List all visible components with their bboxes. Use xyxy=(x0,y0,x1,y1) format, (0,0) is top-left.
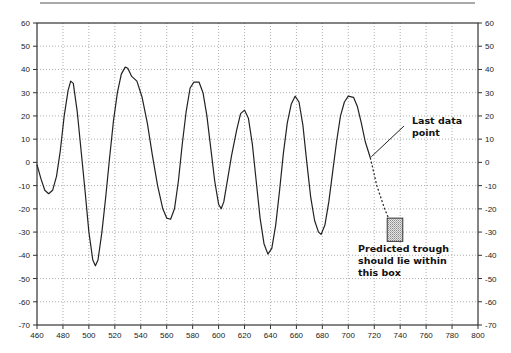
x-tick-label: 520 xyxy=(108,331,122,340)
plot-area-frame xyxy=(37,23,478,325)
y-tick-label: 40 xyxy=(21,65,30,74)
x-tick-label: 460 xyxy=(30,331,44,340)
y-tick-label: 40 xyxy=(485,65,494,74)
y-tick-label: -10 xyxy=(18,182,30,191)
y-tick-label: 20 xyxy=(21,112,30,121)
data-series xyxy=(37,67,389,266)
y-tick-label: -40 xyxy=(18,251,30,260)
prediction-label-line2: should lie within xyxy=(358,255,447,266)
y-axis-left: 6050403020100-10-20-30-40-50-60-70 xyxy=(18,19,37,330)
y-tick-label: 0 xyxy=(485,158,490,167)
x-tick-label: 700 xyxy=(342,331,356,340)
x-tick-label: 640 xyxy=(264,331,278,340)
y-tick-label: -30 xyxy=(18,228,30,237)
x-tick-label: 620 xyxy=(238,331,252,340)
y-axis-right: 6050403020100-10-20-30-40-50-60-70 xyxy=(478,19,497,330)
y-tick-label: -40 xyxy=(485,251,497,260)
y-tick-label: -10 xyxy=(485,182,497,191)
x-tick-label: 540 xyxy=(134,331,148,340)
x-tick-label: 480 xyxy=(56,331,70,340)
oscillation-line-chart: 6050403020100-10-20-30-40-50-60-70 60504… xyxy=(0,0,511,353)
y-tick-label: -30 xyxy=(485,228,497,237)
y-tick-label: -70 xyxy=(485,321,497,330)
x-tick-label: 560 xyxy=(160,331,174,340)
prediction-box xyxy=(387,218,403,241)
prediction-label-line3: this box xyxy=(358,267,401,278)
data-line xyxy=(37,67,370,266)
x-tick-label: 740 xyxy=(393,331,407,340)
y-tick-label: -50 xyxy=(485,275,497,284)
x-tick-label: 500 xyxy=(82,331,96,340)
y-tick-label: 10 xyxy=(485,135,494,144)
y-tick-label: -50 xyxy=(18,275,30,284)
x-tick-label: 680 xyxy=(316,331,330,340)
x-tick-label: 600 xyxy=(212,331,226,340)
x-tick-label: 580 xyxy=(186,331,200,340)
y-tick-label: 60 xyxy=(21,19,30,28)
x-axis: 4604805005205405605806006206406606807007… xyxy=(30,325,485,340)
grid-lines xyxy=(37,23,478,325)
x-tick-label: 660 xyxy=(290,331,304,340)
y-tick-label: 10 xyxy=(21,135,30,144)
y-tick-label: 50 xyxy=(21,42,30,51)
x-tick-label: 720 xyxy=(368,331,382,340)
y-tick-label: 50 xyxy=(485,42,494,51)
y-tick-label: -20 xyxy=(485,205,497,214)
last-point-label-line2: point xyxy=(412,127,440,138)
y-tick-label: -70 xyxy=(18,321,30,330)
y-tick-label: -20 xyxy=(18,205,30,214)
x-tick-label: 780 xyxy=(445,331,459,340)
prediction-label-line1: Predicted trough xyxy=(358,243,449,254)
y-tick-label: 30 xyxy=(21,89,30,98)
y-tick-label: -60 xyxy=(485,298,497,307)
y-tick-label: 0 xyxy=(26,158,31,167)
last-point-leader-line xyxy=(371,126,404,157)
y-tick-label: 30 xyxy=(485,89,494,98)
y-tick-label: 20 xyxy=(485,112,494,121)
y-tick-label: -60 xyxy=(18,298,30,307)
x-tick-label: 800 xyxy=(471,331,485,340)
y-tick-label: 60 xyxy=(485,19,494,28)
last-point-label-line1: Last data xyxy=(412,115,462,126)
x-tick-label: 760 xyxy=(419,331,433,340)
